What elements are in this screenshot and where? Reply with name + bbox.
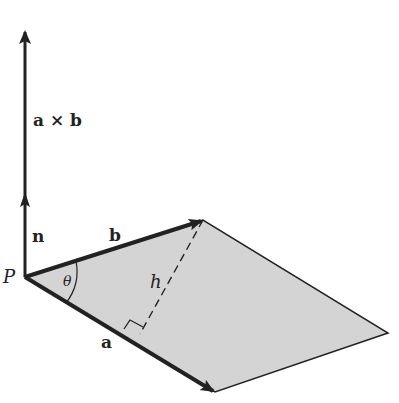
label-h: h [150, 271, 162, 292]
parallelogram [25, 220, 388, 392]
label-a-cross-b: a × b [33, 110, 82, 130]
label-theta: θ [63, 273, 72, 289]
label-n: n [32, 226, 44, 246]
label-b: b [109, 225, 121, 245]
label-a: a [101, 332, 112, 352]
cross-product-diagram: a × b n b P θ h a [0, 0, 399, 403]
label-P: P [2, 266, 16, 287]
